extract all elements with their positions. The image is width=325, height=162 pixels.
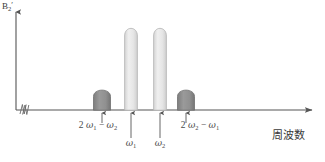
annotation-2w2-minus-w1: 2 ω2 − ω1 bbox=[181, 120, 219, 131]
y-axis-label-prime: ′ bbox=[11, 1, 13, 10]
annotation-text: ω1 bbox=[126, 138, 137, 148]
x-axis-label: 周波数 bbox=[272, 126, 305, 142]
annotation-text: 2 ω2 − ω1 bbox=[181, 120, 219, 130]
peak-pump-omega1 bbox=[125, 28, 138, 110]
annotation-2w1-minus-w2: 2 ω1 − ω2 bbox=[79, 120, 117, 131]
annotation-text: 2 ω1 − ω2 bbox=[79, 120, 117, 130]
annotation-omega2: ω2 bbox=[155, 138, 166, 149]
annotation-text: ω2 bbox=[155, 138, 166, 148]
y-axis-label: B2′ bbox=[2, 1, 13, 12]
annotation-omega1: ω1 bbox=[126, 138, 137, 149]
peak-pump-omega2 bbox=[154, 28, 167, 110]
peak-sideband-right bbox=[178, 90, 195, 110]
peak-sideband-left bbox=[94, 90, 111, 110]
